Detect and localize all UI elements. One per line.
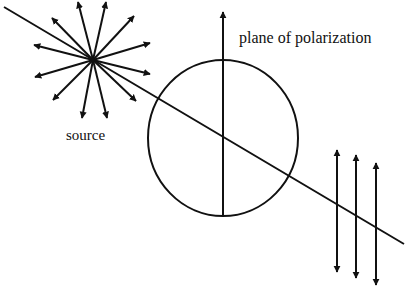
- source-ray-arrow: [93, 60, 107, 118]
- source-point: [91, 58, 96, 63]
- polarized-wave-arrows: [337, 150, 376, 285]
- source-ray-arrow: [34, 45, 93, 60]
- source-ray-arrow: [93, 2, 106, 60]
- plane-of-polarization-label: plane of polarization: [239, 29, 371, 47]
- polarization-diagram: plane of polarization source: [0, 0, 406, 291]
- source-label: source: [66, 127, 105, 144]
